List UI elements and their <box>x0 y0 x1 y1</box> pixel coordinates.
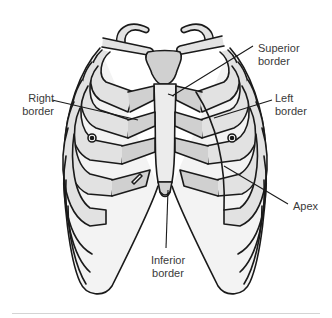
inferior-border-leader <box>166 190 168 248</box>
left-border-label: Left border <box>275 92 307 118</box>
right-border-label: Right border <box>16 92 54 118</box>
rib-cage-diagram: Superior border Right border Left border… <box>0 0 332 318</box>
bottom-divider <box>12 313 320 314</box>
superior-border-label: Superior border <box>258 42 300 68</box>
apex-label: Apex <box>293 200 318 213</box>
inferior-border-label: Inferior border <box>150 254 186 280</box>
